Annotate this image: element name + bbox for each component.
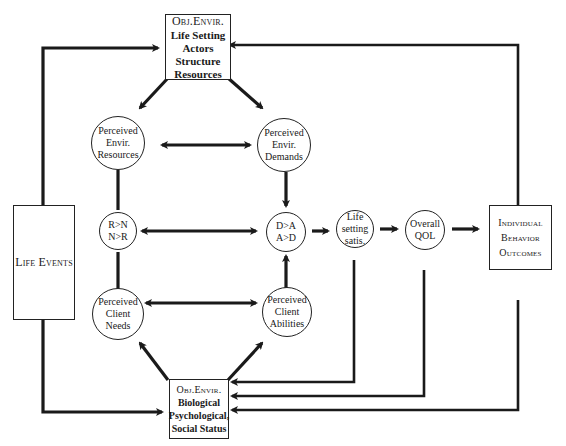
box-line: Psychological, — [169, 409, 229, 422]
box-line: Outcomes — [499, 245, 541, 260]
life-events-box: Life Events — [13, 205, 75, 320]
box-title: Obj.Envir. — [177, 383, 222, 396]
node-line: satis. — [345, 235, 365, 247]
box-line: Biological — [178, 396, 220, 409]
node-line: Overall — [410, 218, 440, 230]
perceived-client-needs-node: Perceived Client Needs — [92, 288, 144, 340]
individual-behavior-outcomes-box: Individual Behavior Outcomes — [489, 205, 552, 270]
node-line: QOL — [415, 230, 436, 242]
node-line: Perceived — [98, 125, 137, 137]
box-line: Behavior — [501, 230, 540, 245]
node-line: Resources — [97, 149, 138, 161]
node-line: D>A — [276, 220, 296, 232]
node-line: Demands — [265, 151, 303, 163]
d-a-comparison-node: D>A A>D — [266, 212, 306, 252]
box-title: Life Events — [15, 255, 73, 270]
node-line: Client — [106, 308, 130, 320]
box-line: Life Setting — [171, 29, 226, 42]
node-line: setting — [342, 223, 369, 235]
box-line: Structure — [175, 55, 220, 68]
node-line: Perceived — [264, 127, 303, 139]
obj-envir-life-setting-box: Obj.Envir. Life Setting Actors Structure… — [165, 14, 231, 80]
box-line: Social Status — [172, 422, 227, 435]
box-title: Obj.Envir. — [172, 14, 224, 29]
box-line: Actors — [182, 42, 213, 55]
node-line: Envir. — [106, 137, 130, 149]
node-line: Needs — [106, 320, 131, 332]
perceived-envir-resources-node: Perceived Envir. Resources — [91, 116, 145, 170]
node-line: Envir. — [272, 139, 296, 151]
node-line: Abilities — [270, 318, 304, 330]
life-setting-satis-node: Life setting satis. — [336, 210, 374, 248]
box-line: Individual — [498, 215, 543, 230]
node-line: R>N — [108, 219, 128, 231]
node-line: N>R — [108, 231, 128, 243]
node-line: A>D — [276, 232, 296, 244]
node-line: Client — [275, 306, 299, 318]
node-line: Perceived — [98, 296, 137, 308]
obj-envir-biological-box: Obj.Envir. Biological Psychological, Soc… — [169, 379, 229, 439]
perceived-client-abilities-node: Perceived Client Abilities — [262, 287, 312, 337]
overall-qol-node: Overall QOL — [405, 210, 445, 250]
perceived-envir-demands-node: Perceived Envir. Demands — [257, 118, 311, 172]
box-line: Resources — [174, 68, 221, 81]
node-line: Life — [347, 211, 364, 223]
r-n-comparison-node: R>N N>R — [99, 212, 137, 250]
node-line: Perceived — [267, 294, 306, 306]
